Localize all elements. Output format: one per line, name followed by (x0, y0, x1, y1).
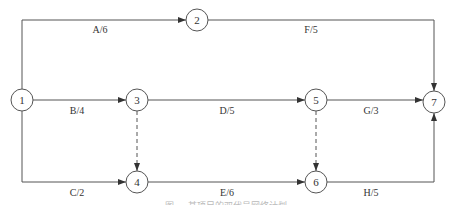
svg-text:7: 7 (431, 96, 437, 108)
node-4: 4 (126, 171, 148, 193)
edge-label-g: G/3 (364, 105, 379, 116)
edge-label-b: B/4 (70, 105, 84, 116)
svg-text:1: 1 (19, 94, 25, 106)
edge-c (22, 111, 126, 182)
node-1: 1 (11, 89, 33, 111)
node-7: 7 (423, 91, 445, 113)
edge-label-f: F/5 (304, 24, 317, 35)
edge-label-e: E/6 (220, 187, 234, 198)
svg-text:3: 3 (134, 94, 140, 106)
node-6: 6 (305, 171, 327, 193)
svg-text:2: 2 (194, 14, 200, 26)
edge-label-c: C/2 (70, 187, 84, 198)
edge-label-d: D/5 (220, 105, 235, 116)
svg-text:5: 5 (313, 94, 319, 106)
figure-caption: 图 … 某项目的双代号网络计划 (165, 200, 287, 205)
node-3: 3 (126, 89, 148, 111)
edge-h (327, 113, 434, 182)
edge-f (208, 20, 434, 91)
edge-label-h: H/5 (364, 187, 379, 198)
svg-text:4: 4 (134, 176, 140, 188)
network-diagram: A/6 F/5 B/4 D/5 G/3 C/2 E/6 H/5 1 2 3 4 … (0, 0, 453, 205)
node-2: 2 (186, 9, 208, 31)
edge-label-a: A/6 (93, 24, 108, 35)
svg-text:6: 6 (313, 176, 319, 188)
node-5: 5 (305, 89, 327, 111)
